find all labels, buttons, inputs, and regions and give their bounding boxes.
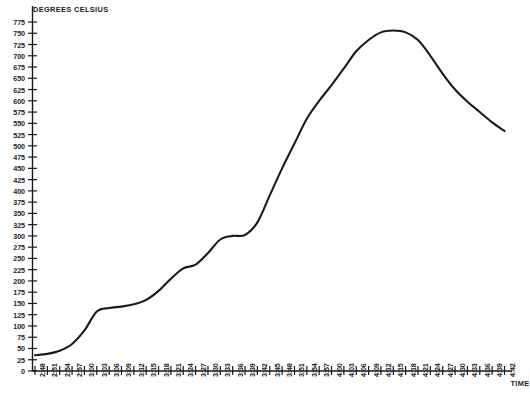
x-tick-label: 3:03 [100,363,109,377]
y-tick-label: 575 [0,108,25,117]
y-tick-label: 500 [0,142,25,151]
y-tick-label: 275 [0,243,25,252]
x-tick-label: 3:36 [236,363,245,377]
x-tick-label: 4:33 [470,363,479,377]
y-tick-label: 775 [0,18,25,27]
y-tick-label: 25 [0,356,25,365]
y-tick-label: 375 [0,198,25,207]
y-tick-label: 625 [0,86,25,95]
y-tick-label: 400 [0,187,25,196]
x-tick-label: 4:21 [421,363,430,377]
y-tick-label: 75 [0,333,25,342]
y-tick-label: 675 [0,63,25,72]
x-tick-label: 4:15 [396,363,405,377]
y-tick-label: 200 [0,277,25,286]
x-tick-label: 4:03 [347,363,356,377]
x-tick-label: 3:24 [186,363,195,377]
y-tick-label: 100 [0,322,25,331]
y-tick-label: 650 [0,74,25,83]
x-tick-label: 2:51 [50,363,59,377]
x-tick-label: 3:39 [248,363,257,377]
x-tick-label: 3:27 [199,363,208,377]
x-tick-label: 4:36 [483,363,492,377]
y-tick-label: 550 [0,119,25,128]
x-tick-label: 3:45 [273,363,282,377]
y-tick-label: 425 [0,176,25,185]
x-tick-label: 3:00 [87,363,96,377]
x-tick-label: 2:54 [63,363,72,377]
x-tick-label: 4:30 [458,363,467,377]
x-tick-label: 4:39 [495,363,504,377]
x-tick-label: 3:42 [260,363,269,377]
y-tick-label: 175 [0,288,25,297]
x-tick-label: 2:48 [38,363,47,377]
y-tick-label: 325 [0,221,25,230]
x-axis-title: TIME [511,379,530,388]
x-tick-label: 3:48 [285,363,294,377]
y-tick-label: 600 [0,97,25,106]
y-tick-label: 125 [0,311,25,320]
y-tick-label: 225 [0,266,25,275]
x-tick-label: 2:57 [75,363,84,377]
x-tick-label: 3:33 [223,363,232,377]
x-tick-label: 3:15 [149,363,158,377]
x-tick-label: 4:09 [372,363,381,377]
y-tick-label: 725 [0,41,25,50]
y-tick-label: 300 [0,232,25,241]
y-tick-label: 475 [0,153,25,162]
y-tick-label: 750 [0,29,25,38]
temperature-curve [35,31,505,356]
y-tick-label: 250 [0,254,25,263]
y-tick-label: 700 [0,52,25,61]
x-tick-label: 3:18 [162,363,171,377]
x-tick-label: 3:51 [297,363,306,377]
y-tick-label: 525 [0,131,25,140]
x-tick-label: 4:18 [409,363,418,377]
x-tick-label: 3:57 [322,363,331,377]
x-tick-label: 3:30 [211,363,220,377]
x-tick-label: 4:00 [335,363,344,377]
x-tick-label: 3:06 [112,363,121,377]
x-tick-label: 3:21 [174,363,183,377]
y-tick-label: 150 [0,299,25,308]
x-tick-label: 4:06 [359,363,368,377]
x-tick-label: 3:54 [310,363,319,377]
x-tick-label: 3:09 [124,363,133,377]
x-tick-label: 4:42 [508,363,517,377]
x-tick-label: 3:12 [137,363,146,377]
x-tick-label: 4:24 [433,363,442,377]
x-tick-label: 4:12 [384,363,393,377]
y-tick-label: 0 [0,367,25,376]
y-tick-label: 50 [0,344,25,353]
x-tick-label: 4:27 [446,363,455,377]
y-tick-label: 450 [0,164,25,173]
y-tick-label: 350 [0,209,25,218]
